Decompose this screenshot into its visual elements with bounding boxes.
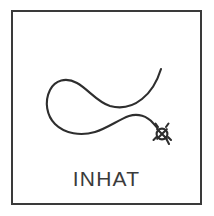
pictogram-card: INHAT [0, 0, 214, 216]
card-caption: INHAT [11, 167, 202, 191]
knot-x-icon [157, 129, 167, 139]
loop-curve-path [47, 69, 161, 134]
string-strokes [47, 69, 171, 144]
